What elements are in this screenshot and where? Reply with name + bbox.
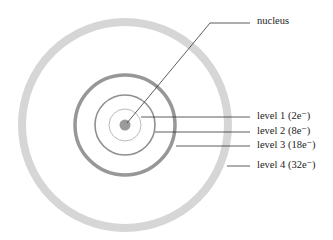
leader-nucleus — [127, 23, 250, 123]
label-level-4: level 4 (32e⁻) — [257, 159, 316, 171]
label-level-2: level 2 (8e⁻) — [257, 125, 310, 137]
label-level-3: level 3 (18e⁻) — [257, 139, 316, 151]
label-nucleus: nucleus — [257, 15, 289, 27]
label-level-1: level 1 (2e⁻) — [257, 110, 310, 122]
